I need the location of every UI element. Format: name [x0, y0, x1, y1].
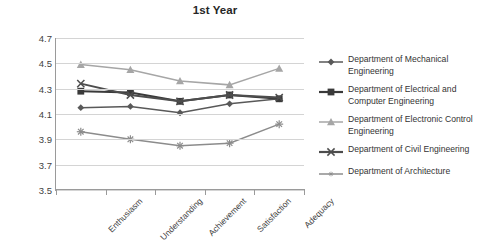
line-chart: 1st Year 4.74.54.34.13.93.73.5 Enthusias…: [0, 0, 485, 252]
legend-item[interactable]: Department of Architecture: [318, 166, 485, 181]
legend-item[interactable]: Department of Civil Engineering: [318, 144, 485, 159]
gridline: [56, 63, 304, 64]
series-4: [77, 120, 283, 150]
legend-marker-diamond-icon: [318, 55, 344, 69]
chart-legend: Department of Mechanical EngineeringDepa…: [318, 54, 485, 188]
plot-area: [56, 38, 304, 190]
x-axis-tick-label: Satisfaction: [254, 196, 292, 234]
data-point-diamond: [177, 109, 184, 116]
legend-item[interactable]: Department of Mechanical Engineering: [318, 54, 485, 77]
legend-label: Department of Civil Engineering: [348, 144, 469, 156]
data-point-diamond: [328, 59, 335, 66]
x-axis-tick-label: Understanding: [159, 196, 205, 242]
legend-marker-x-icon: [318, 145, 344, 159]
x-axis-tick: [205, 190, 206, 195]
y-axis-tick-label: 4.7: [10, 33, 52, 44]
gridline: [56, 165, 304, 166]
x-axis-tick-label: Enthusiasm: [106, 196, 144, 234]
x-axis-tick: [155, 190, 156, 195]
y-axis-tick-label: 4.1: [10, 109, 52, 120]
x-axis-tick: [106, 190, 107, 195]
data-point-asterisk: [329, 172, 334, 177]
legend-label: Department of Electrical and Computer En…: [348, 84, 483, 107]
data-point-asterisk: [77, 128, 85, 136]
legend-item[interactable]: Department of Electrical and Computer En…: [318, 84, 485, 107]
y-axis-tick-label: 3.5: [10, 185, 52, 196]
y-axis-tick-label: 4.3: [10, 83, 52, 94]
data-point-asterisk: [275, 120, 283, 128]
data-point-asterisk: [176, 142, 184, 150]
legend-label: Department of Architecture: [348, 166, 450, 178]
x-axis-tick-label: Adequacy: [302, 196, 336, 230]
legend-item[interactable]: Department of Electronic Control Enginee…: [318, 114, 485, 137]
data-point-diamond: [226, 100, 233, 107]
y-axis-tick-label: 4.5: [10, 58, 52, 69]
y-axis-tick-label: 3.9: [10, 134, 52, 145]
gridline: [56, 38, 304, 39]
y-axis-tick-labels: 4.74.54.34.13.93.73.5: [4, 38, 52, 190]
legend-label: Department of Mechanical Engineering: [348, 54, 483, 77]
series-2: [77, 61, 283, 89]
data-point-asterisk: [226, 139, 234, 147]
legend-marker-asterisk-icon: [318, 167, 344, 181]
y-axis-tick-label: 3.7: [10, 159, 52, 170]
x-axis-tick: [304, 190, 305, 195]
gridline: [56, 89, 304, 90]
x-axis-tick-labels: EnthusiasmUnderstandingAchievementSatisf…: [56, 196, 316, 252]
data-point-square: [328, 89, 335, 96]
data-point-triangle: [275, 64, 283, 71]
gridline: [56, 114, 304, 115]
legend-marker-triangle-icon: [318, 115, 344, 129]
x-axis-tick: [254, 190, 255, 195]
legend-marker-square-icon: [318, 85, 344, 99]
legend-label: Department of Electronic Control Enginee…: [348, 114, 483, 137]
x-axis-tick: [56, 190, 57, 195]
gridline: [56, 139, 304, 140]
data-point-diamond: [77, 104, 84, 111]
chart-title: 1st Year: [0, 4, 430, 16]
x-axis-tick-label: Achievement: [206, 196, 248, 238]
data-point-diamond: [127, 103, 134, 110]
